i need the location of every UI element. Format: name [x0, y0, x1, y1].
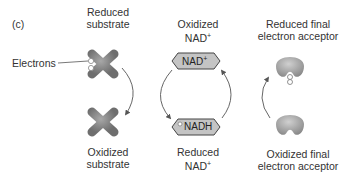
oxidized-acceptor-icon [276, 115, 304, 135]
nad-hex-label: NAD+ [182, 55, 207, 67]
nadh-hex-label: NADH [184, 121, 212, 132]
substrate-oxidation-arrow [122, 68, 133, 114]
electrons-callout-line [58, 61, 88, 63]
reduced-substrate-icon [88, 54, 114, 74]
acceptor-reduction-arrow [262, 78, 270, 118]
nad-reduction-arrow [160, 70, 172, 118]
reduced-acceptor-icon [276, 57, 304, 85]
oxidized-substrate-icon [92, 112, 114, 132]
nadh-oxidation-arrow [222, 71, 231, 118]
nadh-electron-icon [178, 122, 182, 126]
diagram-art [0, 0, 345, 179]
